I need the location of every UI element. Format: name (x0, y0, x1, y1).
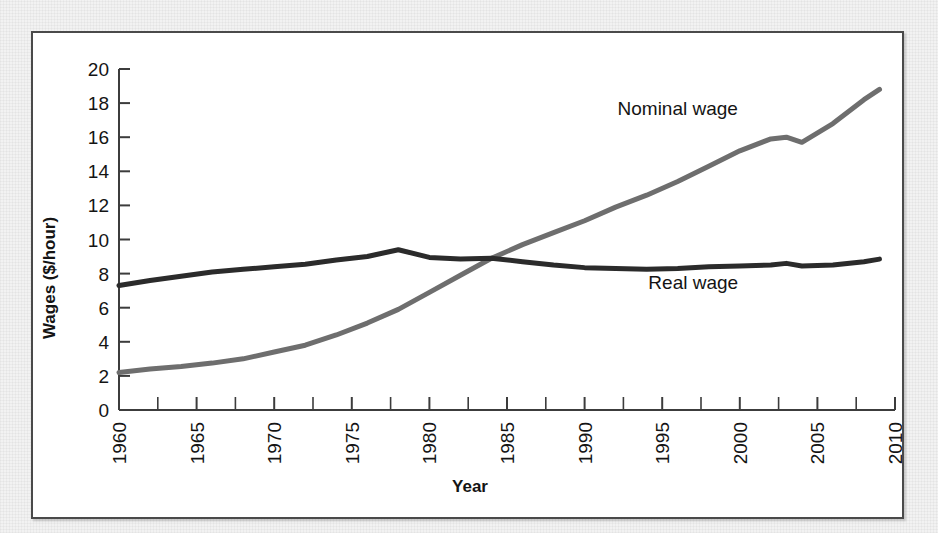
series-line-nominal-wage (119, 89, 879, 372)
x-tick-label: 1980 (419, 422, 440, 464)
x-tick-label: 1965 (187, 422, 208, 464)
x-tick-label: 1990 (575, 422, 596, 464)
y-tick-label: 10 (88, 230, 109, 251)
x-tick-label: 2000 (730, 422, 751, 464)
x-tick-group (119, 397, 895, 410)
y-tick-label: 6 (98, 298, 109, 319)
annotation-group: Nominal wage Real wage (618, 98, 739, 293)
series-label-nominal-wage: Nominal wage (618, 98, 738, 119)
x-tick-label-group: 1960196519701975198019851990199520002005… (109, 422, 902, 464)
y-tick-group (119, 69, 130, 410)
x-tick-label: 2010 (885, 422, 902, 464)
y-tick-label: 16 (88, 127, 109, 148)
y-tick-label: 18 (88, 93, 109, 114)
x-axis-group (119, 397, 895, 410)
x-axis-title: Year (452, 477, 488, 496)
figure-root: Wages ($/hour) Year Nominal wage Real wa… (0, 0, 938, 533)
y-tick-label: 14 (88, 161, 110, 182)
y-tick-label: 2 (98, 366, 109, 387)
y-tick-label: 8 (98, 264, 109, 285)
y-tick-label-group: 02468101214161820 (88, 59, 110, 421)
x-tick-label: 1985 (497, 422, 518, 464)
wages-line-chart: Wages ($/hour) Year Nominal wage Real wa… (33, 33, 902, 517)
y-tick-label: 12 (88, 195, 109, 216)
x-tick-label: 1995 (652, 422, 673, 464)
y-tick-label: 0 (98, 400, 109, 421)
y-axis-group (119, 69, 130, 410)
x-tick-label: 1960 (109, 422, 130, 464)
x-tick-label: 1975 (342, 422, 363, 464)
y-tick-label: 4 (98, 332, 109, 353)
y-axis-title: Wages ($/hour) (40, 217, 59, 339)
series-label-real-wage: Real wage (648, 272, 738, 293)
y-tick-label: 20 (88, 59, 109, 80)
x-tick-label: 2005 (807, 422, 828, 464)
series-group (119, 89, 879, 372)
x-tick-label: 1970 (264, 422, 285, 464)
chart-frame: Wages ($/hour) Year Nominal wage Real wa… (31, 31, 904, 519)
